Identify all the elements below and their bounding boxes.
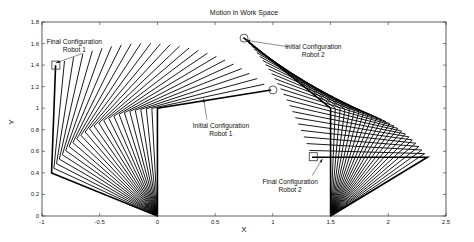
y-tick-label: 1: [36, 105, 40, 111]
y-tick-label: 0.8: [31, 127, 40, 133]
x-tick-label: 2: [387, 219, 391, 225]
robot2-frame: [254, 49, 350, 216]
robot1-frame: [157, 90, 271, 216]
x-axis-label: X: [241, 225, 247, 234]
annotation-text: Final Configuration: [262, 178, 318, 186]
x-tick-label: 1: [271, 219, 275, 225]
x-tick-label: 0: [156, 219, 160, 225]
robot2-frame: [307, 144, 422, 216]
x-tick-label: 2.5: [442, 219, 451, 225]
x-tick-label: -0.5: [95, 219, 106, 225]
robot1-frame: [94, 45, 170, 216]
robot2-frame: [312, 157, 427, 216]
y-tick-label: 1.8: [31, 19, 40, 25]
y-tick-label: 0.2: [31, 191, 40, 197]
robot1-frame: [114, 53, 208, 216]
annotation-arrowhead: [319, 159, 322, 163]
y-tick-label: 0.4: [31, 170, 40, 176]
annotation-text: Robot 1: [209, 130, 232, 137]
x-tick-label: -1: [39, 219, 45, 225]
annotation-leader-line: [56, 54, 82, 63]
annotation-text: Final Configuration: [47, 38, 103, 46]
robot1-frame: [152, 84, 264, 216]
y-tick-label: 1.2: [31, 84, 40, 90]
chart-title: Motion in Work Space: [210, 9, 278, 17]
y-tick-label: 1.6: [31, 41, 40, 47]
y-axis-label: Y: [7, 119, 16, 125]
x-tick-label: 0.5: [211, 219, 220, 225]
annotation-text: Robot 1: [63, 46, 86, 53]
motion-chart: Motion in Work Space Final Configuration…: [0, 0, 474, 242]
y-tick-label: 0.6: [31, 148, 40, 154]
annotation-text: Initial Configuration: [285, 43, 342, 51]
annotation-text: Initial Configuration: [193, 122, 250, 130]
x-tick-label: 1.5: [326, 219, 335, 225]
annotation-text: Robot 2: [279, 186, 302, 193]
annotation-text: Robot 2: [302, 51, 325, 58]
y-tick-label: 1.4: [31, 62, 40, 68]
